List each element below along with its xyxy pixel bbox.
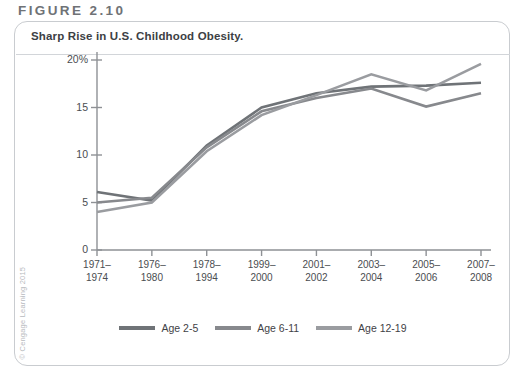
series-line-age-2-5 [97,83,481,201]
legend-swatch [119,326,155,329]
legend-item: Age 6-11 [215,322,299,334]
legend-swatch [215,326,251,329]
legend-label: Age 6-11 [257,322,299,334]
figure-card: Sharp Rise in U.S. Childhood Obesity. 05… [14,21,510,366]
x-axis-label: 1971– 1974 [70,259,124,284]
x-axis-label: 2001– 2002 [289,259,343,284]
figure-number-label: FIGURE 2.10 [18,3,125,18]
plot-area: 05101520% 1971– 19741976– 19801978– 1994… [15,22,511,367]
legend-item: Age 2-5 [119,322,198,334]
legend-swatch [316,326,352,329]
y-axis-label: 20% [48,53,88,65]
y-axis-label: 0 [48,243,88,255]
x-axis-label: 1976– 1980 [125,259,179,284]
x-axis-label: 1978– 1994 [180,259,234,284]
x-axis-label: 2007– 2008 [454,259,508,284]
x-axis-label: 2005– 2006 [399,259,453,284]
chart-legend: Age 2-5Age 6-11Age 12-19 [15,322,511,334]
y-axis-label: 15 [48,101,88,113]
x-axis-label: 2003– 2004 [344,259,398,284]
legend-label: Age 12-19 [358,322,406,334]
x-axis-label: 1999– 2000 [235,259,289,284]
y-axis-label: 10 [48,148,88,160]
copyright-notice: © Cengage Learning 2015 [18,250,27,360]
y-axis-label: 5 [48,196,88,208]
legend-item: Age 12-19 [316,322,406,334]
legend-label: Age 2-5 [161,322,198,334]
line-chart [15,22,511,367]
figure-container: FIGURE 2.10 Sharp Rise in U.S. Childhood… [0,0,526,377]
